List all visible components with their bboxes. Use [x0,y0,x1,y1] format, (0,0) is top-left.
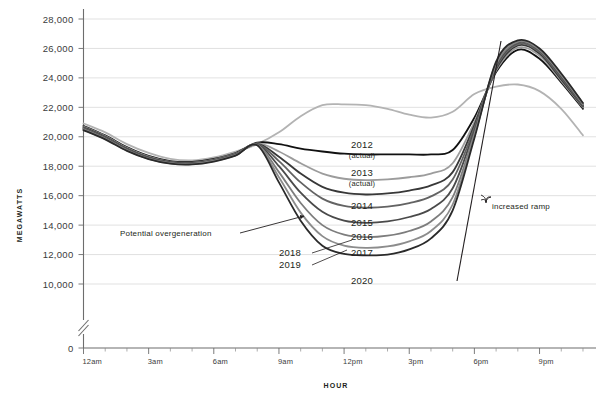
y-tick-label: 14,000 [43,220,74,231]
x-tick-label: 3pm [408,357,423,366]
series-sublabel-2012: (actual) [349,151,376,160]
y-tick-label: 24,000 [43,72,74,83]
annotation-potential-overgeneration: Potential overgeneration [120,229,212,238]
x-tick-label: 6am [213,357,228,366]
x-axis-title: HOUR [323,382,348,389]
y-tick-label: 18,000 [43,161,74,172]
y-axis-title: MEGAWATTS [16,188,23,243]
series-label-2018: 2018 [279,247,301,258]
y-tick-label: 22,000 [43,102,74,113]
x-tick-label: 12am [83,357,103,366]
y-tick-label: 28,000 [43,14,74,25]
series-label-2016: 2016 [351,231,373,242]
y-tick-label: 10,000 [43,279,74,290]
series-label-2012: 2012 [351,139,373,150]
chart-canvas: 010,00012,00014,00016,00018,00020,00022,… [0,0,608,410]
x-tick-label: 6pm [473,357,488,366]
series-sublabel-2013: (actual) [349,179,376,188]
x-tick-label: 9pm [539,357,554,366]
y-tick-label: 20,000 [43,131,74,142]
y-tick-label: 0 [68,343,74,354]
series-label-2020: 2020 [351,275,373,286]
annotation-increased-ramp: increased ramp [492,202,550,211]
y-tick-label: 12,000 [43,249,74,260]
x-tick-label: 3am [148,357,163,366]
y-tick-label: 16,000 [43,190,74,201]
series-label-2015: 2015 [351,217,373,228]
x-tick-label: 12pm [343,357,363,366]
x-tick-label: 9am [278,357,293,366]
series-label-2019: 2019 [279,259,301,270]
y-tick-label: 26,000 [43,43,74,54]
series-label-2013: 2013 [351,167,373,178]
duck-curve-chart: 010,00012,00014,00016,00018,00020,00022,… [0,0,608,410]
series-label-2014: 2014 [351,200,373,211]
series-label-2017: 2017 [351,247,373,258]
